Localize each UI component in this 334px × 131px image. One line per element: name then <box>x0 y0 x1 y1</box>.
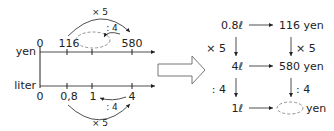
op1-right: × 5 <box>296 42 316 55</box>
row1-left: 0.8ℓ <box>221 19 243 32</box>
row2-left: 4ℓ <box>231 60 243 73</box>
op2-left: : 4 <box>212 83 226 96</box>
op1-left: × 5 <box>206 42 226 55</box>
top-inner-arc-label: : 4 <box>106 23 118 33</box>
unknown-oval <box>76 32 110 48</box>
top-arc-label: × 5 <box>92 7 108 17</box>
implies-arrow-icon <box>158 56 205 84</box>
divide-four-arc-bottom <box>100 97 126 100</box>
bottom-arc-label: × 5 <box>92 118 108 128</box>
op2-right: : 4 <box>296 83 310 96</box>
double-number-line: yen liter 0 116 580 0 0,8 1 4 × 5 : 4 : … <box>14 7 155 128</box>
yen-axis-label: yen <box>16 45 36 58</box>
tick-label: 4 <box>129 90 136 103</box>
tick-label: 0,8 <box>60 90 78 103</box>
liter-axis-label: liter <box>14 79 36 92</box>
row1-right: 116 yen <box>279 19 324 32</box>
unknown-oval <box>277 102 303 114</box>
times-five-arc-top <box>68 19 130 36</box>
ratio-table: 0.8ℓ 116 yen × 5 × 5 4ℓ 580 yen : 4 : 4 … <box>206 19 326 115</box>
row2-right: 580 yen <box>279 60 324 73</box>
row3-left: 1ℓ <box>231 102 243 115</box>
divide-four-arc-top <box>104 33 120 37</box>
tick-label: 580 <box>122 37 143 50</box>
tick-label: 0 <box>37 37 44 50</box>
tick-label: 1 <box>90 90 97 103</box>
tick-label: 0 <box>37 90 44 103</box>
row3-right-unit: yen <box>306 102 326 115</box>
ratio-diagram: yen liter 0 116 580 0 0,8 1 4 × 5 : 4 : … <box>0 0 334 131</box>
bottom-inner-arc-label: : 4 <box>106 102 118 112</box>
